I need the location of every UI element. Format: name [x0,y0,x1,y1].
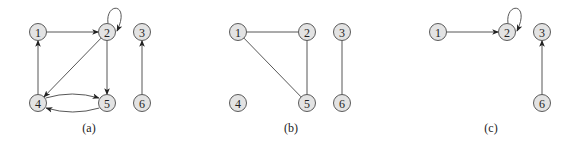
node-label: 4 [235,97,241,111]
panel-a: 123456(a) [30,8,151,135]
graph-figure: 123456(a) 123456(b) 1236(c) [0,0,574,146]
node-label: 4 [35,97,41,111]
edge-2-4 [44,38,101,97]
nodes: 123456 [30,24,151,112]
node-3: 3 [334,24,351,41]
node-label: 3 [139,26,145,40]
edges [447,8,543,94]
panel-b: 123456(b) [230,24,351,136]
caption-c: (c) [484,121,497,135]
nodes: 1236 [430,24,551,112]
node-label: 6 [139,97,145,111]
node-4: 4 [230,95,247,112]
node-4: 4 [30,95,47,112]
node-3: 3 [134,24,151,41]
node-label: 2 [504,26,510,40]
node-label: 3 [339,26,345,40]
node-6: 6 [534,95,551,112]
node-label: 2 [304,26,310,40]
node-1: 1 [430,24,447,41]
node-label: 2 [104,26,110,40]
nodes: 123456 [230,24,351,112]
edge-1-5 [244,38,301,97]
node-label: 6 [539,97,545,111]
node-label: 3 [539,26,545,40]
node-label: 1 [35,26,41,40]
node-2: 2 [499,24,516,41]
node-2: 2 [99,24,116,41]
caption-a: (a) [82,121,95,135]
node-5: 5 [99,95,116,112]
node-6: 6 [134,95,151,112]
node-1: 1 [230,24,247,41]
node-6: 6 [334,95,351,112]
node-1: 1 [30,24,47,41]
node-2: 2 [299,24,316,41]
edge-4-5 [46,94,99,98]
edges [38,8,142,112]
panel-c: 1236(c) [430,8,551,135]
node-label: 5 [304,97,310,111]
node-label: 5 [104,97,110,111]
caption-b: (b) [284,121,298,135]
node-3: 3 [534,24,551,41]
node-label: 1 [235,26,241,40]
edges [244,32,342,97]
node-label: 1 [435,26,441,40]
edge-5-4 [46,108,99,112]
node-5: 5 [299,95,316,112]
node-label: 6 [339,97,345,111]
